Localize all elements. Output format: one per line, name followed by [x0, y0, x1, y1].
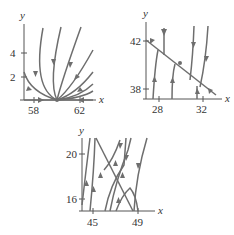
x-tick-label: 49 — [132, 216, 144, 228]
x-tick-label: 62 — [74, 104, 85, 116]
phase-portraits: y x 4 2 58 62 y x — [0, 0, 234, 235]
plot-3: y x 20 16 45 49 — [66, 124, 163, 228]
plot-1: y x 4 2 58 62 — [10, 9, 104, 116]
plot-2: y x 42 38 28 32 — [130, 7, 230, 115]
x-tick-label: 28 — [152, 103, 164, 115]
x-axis-label: x — [224, 92, 230, 104]
y-tick-label: 16 — [66, 193, 78, 205]
x-axis-label: x — [98, 93, 104, 105]
equilibrium-point — [178, 61, 182, 65]
y-axis-label: y — [78, 124, 84, 136]
y-tick-label: 42 — [130, 35, 141, 47]
x-tick-label: 32 — [196, 103, 207, 115]
y-tick-label: 20 — [66, 148, 78, 160]
equilibrium-point — [55, 98, 59, 102]
y-axis-label: y — [142, 7, 148, 19]
y-tick-label: 38 — [130, 83, 142, 95]
y-axis-label: y — [19, 9, 25, 21]
x-tick-label: 45 — [87, 216, 99, 228]
y-tick-label: 2 — [10, 71, 16, 83]
x-tick-label: 58 — [28, 104, 40, 116]
y-tick-label: 4 — [10, 47, 16, 59]
x-axis-label: x — [157, 204, 163, 216]
